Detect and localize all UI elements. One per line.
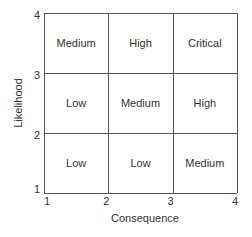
y-tick-label: 1 [34, 183, 40, 195]
cell-label-critical: Critical [188, 37, 222, 49]
y-tick-label: 4 [34, 9, 40, 21]
x-tick-label: 2 [103, 195, 109, 207]
x-axis-label: Consequence [111, 212, 179, 224]
x-tick-label: 1 [44, 195, 50, 207]
x-axis-ticks: 1234 [44, 195, 238, 207]
cell-labels: MediumHighCriticalLowMediumHighLowLowMed… [57, 37, 225, 169]
cell-label-low: Low [66, 157, 86, 169]
cell-label-high: High [129, 37, 152, 49]
x-tick-label: 4 [232, 195, 238, 207]
y-axis-ticks: 1234 [34, 9, 40, 195]
y-tick-label: 2 [34, 129, 40, 141]
cell-label-medium: Medium [57, 37, 96, 49]
risk-matrix-chart: MediumHighCriticalLowMediumHighLowLowMed… [0, 0, 252, 237]
cell-label-high: High [194, 97, 217, 109]
cell-label-medium: Medium [185, 157, 224, 169]
y-axis-label: Likelihood [12, 78, 24, 128]
cell-label-low: Low [130, 157, 150, 169]
y-tick-label: 3 [34, 69, 40, 81]
x-tick-label: 3 [168, 195, 174, 207]
cell-label-medium: Medium [121, 97, 160, 109]
cell-label-low: Low [66, 97, 86, 109]
